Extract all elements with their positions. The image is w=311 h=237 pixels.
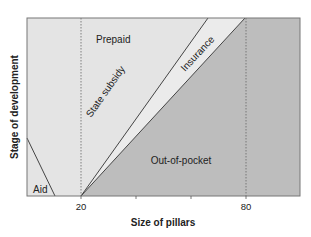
y-axis-label: Stage of development bbox=[9, 54, 20, 159]
x-tick-label-20: 20 bbox=[76, 201, 87, 212]
x-axis-label: Size of pillars bbox=[131, 217, 196, 228]
region-label-prepaid: Prepaid bbox=[96, 34, 130, 45]
x-tick-label-80: 80 bbox=[241, 201, 252, 212]
region-label-out-of-pocket: Out-of-pocket bbox=[151, 155, 212, 166]
region-label-aid: Aid bbox=[33, 184, 47, 195]
pillars-diagram: 20 80 Size of pillars Stage of developme… bbox=[0, 0, 311, 237]
